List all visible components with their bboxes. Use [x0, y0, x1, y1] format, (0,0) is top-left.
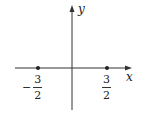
x-axis-label: x: [126, 71, 133, 83]
denominator: 2: [103, 90, 110, 101]
numerator: 3: [103, 74, 110, 85]
numerator: 3: [34, 74, 41, 85]
fraction-bar: [33, 87, 42, 88]
minus-sign: −: [22, 82, 31, 93]
denominator: 2: [34, 90, 41, 101]
right-point-label: 3 2: [102, 74, 111, 101]
y-axis-label: y: [78, 3, 85, 15]
left-point-dot: [36, 66, 40, 70]
right-point-dot: [105, 66, 109, 70]
left-point-label: − 3 2: [22, 74, 42, 101]
y-axis-arrow-icon: [70, 5, 75, 12]
coordinate-axes: [0, 0, 145, 123]
fraction-bar: [102, 87, 111, 88]
